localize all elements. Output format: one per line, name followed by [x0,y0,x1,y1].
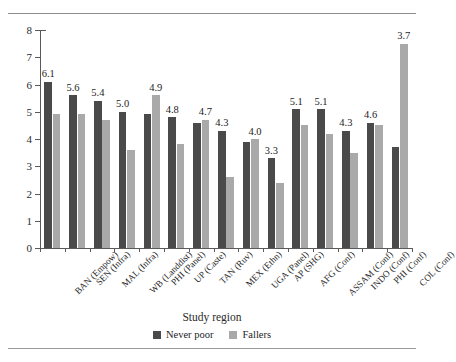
bar-value-label: 4.3 [213,118,231,129]
bar-never-poor [317,109,325,248]
bar-fallers [127,150,135,248]
y-tick-label: 6 [27,79,33,90]
bar-never-poor [69,95,77,248]
y-tick-label: 2 [27,188,33,199]
legend-swatch-fallers [229,331,237,339]
bar-group: 5.1 [292,30,308,248]
y-tick-label: 8 [27,25,33,36]
bar-fallers [78,114,86,248]
bar-fallers [400,44,408,248]
bar-value-label: 5.6 [64,83,82,94]
bar-fallers [251,139,259,248]
bar-never-poor [367,123,375,248]
bar-fallers [202,120,210,248]
bar-value-label: 6.1 [39,69,57,80]
bar-value-label: 3.3 [262,146,280,157]
bar-fallers [276,183,284,248]
bar-value-label: 5.4 [89,88,107,99]
bar-fallers [375,125,383,248]
x-tick [412,248,413,252]
bar-value-label: 4.7 [196,107,214,118]
bar-value-label: 5.0 [114,99,132,110]
bar-group: 4.3 [342,30,358,248]
bar-value-label: 4.6 [362,110,380,121]
bar-never-poor [44,82,52,248]
bar-group: 6.1 [44,30,60,248]
bar-fallers [102,120,110,248]
bar-fallers [152,95,160,248]
bar-fallers [226,177,234,248]
chart-legend: Never poor Fallers [0,329,424,340]
y-tick-label: 0 [27,243,33,254]
bar-never-poor [193,123,201,248]
y-tick-label: 3 [27,161,33,172]
bar-group: 5.1 [317,30,333,248]
bar-group: 5.0 [119,30,135,248]
clipped-footnote-text [10,352,340,361]
bar-value-label: 5.1 [287,97,305,108]
legend-label-fallers: Fallers [242,329,271,340]
bar-fallers [350,153,358,248]
bar-group: 4.9 [144,30,160,248]
bar-never-poor [94,101,102,248]
bar-value-label: 5.1 [312,97,330,108]
y-tick-label: 4 [27,134,33,145]
bar-group: 4.6 [367,30,383,248]
bar-group: 4.8 [168,30,184,248]
y-tick-label: 7 [27,52,33,63]
bottom-divider-rule [8,348,416,349]
bar-never-poor [218,131,226,248]
category-labels-layer: BAN (Empow)SEN (Infra)MAL (Infra)WB (Lan… [40,250,412,310]
bar-group: 3.7 [392,30,408,248]
legend-swatch-never-poor [153,331,161,339]
top-divider-rule [8,13,416,14]
bar-value-label: 4.9 [147,83,165,94]
bar-group: 5.6 [69,30,85,248]
plot-area: 012345678 6.15.65.45.04.94.84.74.34.03.3… [40,30,412,248]
bar-group: 5.4 [94,30,110,248]
bar-never-poor [342,131,350,248]
y-tick-label: 1 [27,215,33,226]
bar-never-poor [168,117,176,248]
bars-layer: 6.15.65.45.04.94.84.74.34.03.35.15.14.34… [40,30,412,248]
bar-group: 4.0 [243,30,259,248]
legend-item-fallers: Fallers [229,329,271,340]
bar-never-poor [268,158,276,248]
bar-group: 4.7 [193,30,209,248]
bar-fallers [53,114,61,248]
bar-value-label: 4.8 [163,105,181,116]
clipped-heading-text [10,0,310,10]
bar-group: 3.3 [268,30,284,248]
bar-fallers [177,144,185,248]
bar-never-poor [292,109,300,248]
bar-value-label: 4.3 [337,118,355,129]
bar-never-poor [243,142,251,248]
x-axis-line [40,248,412,249]
bar-never-poor [392,147,400,248]
bar-fallers [301,125,309,248]
y-tick-label: 5 [27,106,33,117]
bar-value-label: 4.0 [246,127,264,138]
x-axis-title: Study region [0,311,424,323]
bar-never-poor [144,114,152,248]
legend-label-never-poor: Never poor [166,329,214,340]
legend-item-never-poor: Never poor [153,329,214,340]
bar-never-poor [119,112,127,248]
bar-fallers [326,134,334,248]
bar-group: 4.3 [218,30,234,248]
bar-value-label: 3.7 [395,31,413,42]
